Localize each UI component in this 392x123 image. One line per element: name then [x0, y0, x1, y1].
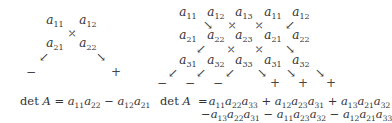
det-3x3-formula-line2: −a13a22a31 − a11a23a32 − a12a21a33: [201, 107, 392, 123]
formula-rhs-line2: −a13a22a31 − a11a23a32 − a12a21a33: [201, 107, 392, 121]
minus-sign: −: [185, 76, 195, 90]
crossed-arrows-icon: ⤫: [226, 44, 235, 55]
formula-lhs: det A =: [20, 94, 64, 108]
arrow-down-left-icon: ↙: [196, 43, 206, 55]
arrow-down-right-icon: ↘: [96, 51, 106, 63]
crossed-arrows-icon: ⤫: [67, 28, 76, 39]
matrix-entry-a23: a23: [235, 28, 252, 44]
matrix-entry-a22: a22: [79, 36, 96, 52]
matrix-entry-a11: a11: [264, 5, 281, 21]
arrow-down-right-icon: ↘: [315, 67, 325, 79]
crossed-arrows-icon: ⤫: [254, 20, 263, 31]
matrix-entry-a13: a13: [235, 5, 252, 21]
arrow-down-left-icon: ↙: [168, 67, 178, 79]
matrix-entry-a21: a21: [264, 28, 281, 44]
formula-rhs: a11a22 − a12a21: [68, 94, 151, 108]
minus-sign: −: [213, 76, 223, 90]
arrow-down-right-icon: ↘: [285, 43, 295, 55]
arrow-down-left-icon: ↙: [39, 51, 49, 63]
matrix-entry-a32: a32: [207, 53, 224, 69]
arrow-down-right-icon: ↘: [286, 67, 296, 79]
matrix-entry-a21: a21: [179, 28, 196, 44]
plus-sign: +: [326, 76, 336, 90]
matrix-entry-a31: a31: [179, 53, 196, 69]
plus-sign: +: [298, 76, 308, 90]
crossed-arrows-icon: ⤫: [254, 44, 263, 55]
det-2x2-formula: det A = a11a22 − a12a21: [20, 94, 150, 110]
minus-sign: −: [26, 65, 36, 79]
matrix-entry-a33: a33: [235, 53, 252, 69]
matrix-entry-a11: a11: [179, 5, 196, 21]
plus-sign: +: [270, 76, 280, 90]
arrow-down-right-icon: ↘: [257, 67, 267, 79]
formula-lhs: det A =: [160, 94, 205, 108]
arrow-down-left-icon: ↙: [225, 67, 235, 79]
plus-sign: +: [111, 65, 121, 79]
crossed-arrows-icon: ⤫: [227, 20, 236, 31]
arrow-down-right-icon: ↘: [203, 19, 213, 31]
minus-sign: −: [157, 76, 167, 90]
arrow-down-left-icon: ↙: [196, 67, 206, 79]
formula-rhs-line1: a11a22a33 + a12a23a31 + a13a21a32: [209, 94, 391, 108]
matrix-entry-a11: a11: [46, 13, 63, 29]
arrow-down-left-icon: ↙: [285, 19, 295, 31]
matrix-entry-a12: a12: [79, 13, 96, 29]
